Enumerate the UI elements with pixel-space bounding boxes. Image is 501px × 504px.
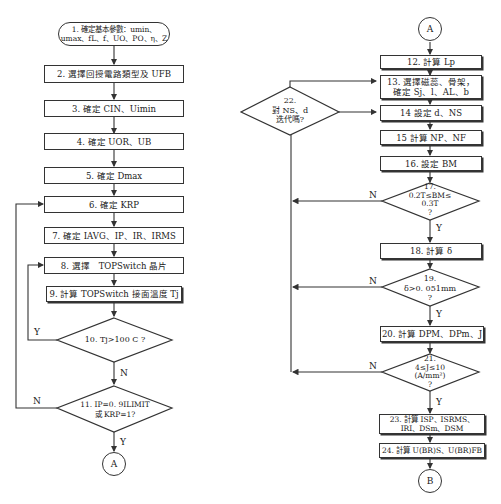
step-16-box: 16. 設定 BM <box>380 156 482 171</box>
step-14-box: 14 設定 d、NS <box>380 105 482 121</box>
decision-21-text: 21. 4≤J≤10 (A/mm²) ? <box>395 355 465 389</box>
step-12-box: 12. 計算 Lp <box>380 55 482 69</box>
decision-19-text: 19. δ>0. 051mm ? <box>395 274 465 303</box>
label-y-10: Y <box>34 327 40 337</box>
label-n-19: N <box>369 276 377 286</box>
step-6-box: 6. 確定 KRP <box>44 196 184 213</box>
step-18-box: 18. 計算 δ <box>380 243 482 259</box>
step-20-box: 20. 計算 DPM、DPm、J <box>380 326 484 342</box>
step-2-box: 2. 選擇回授電路類型及 UFB <box>44 65 184 83</box>
step-16-label: 16. 設定 BM <box>405 159 457 169</box>
label-n-10: N <box>120 368 128 378</box>
step-8-label: 8. 選擇 TOPSwitch 晶片 <box>61 261 167 271</box>
step-5-label: 5. 確定 Dmax <box>86 171 142 181</box>
label-n-11: N <box>33 396 41 406</box>
step-6-label: 6. 確定 KRP <box>89 200 139 210</box>
start-line-1: 1. 確定基本參數：umin、 <box>72 25 157 34</box>
decision-10-text: 10. Tj>100 C ? <box>72 335 158 345</box>
step-4-label: 4. 確定 UOR、UB <box>77 137 151 147</box>
step-12-label: 12. 計算 Lp <box>407 57 455 67</box>
step-3-label: 3. 確定 CIN、Uimin <box>72 104 156 114</box>
step-13-box: 13. 選擇磁蕊、骨架， 確定 Sj、l、AL、b <box>380 75 482 99</box>
step-7-label: 7. 確定 IAVG、IP、IR、IRMS <box>52 231 176 241</box>
start-terminal: 1. 確定基本參數：umin、 umax、fL、f、UO、PO、η、Z <box>58 22 170 46</box>
step-14-label: 14 設定 d、NS <box>400 108 462 118</box>
step-9-label: 9. 計算 TOPSwitch 接面溫度 Tj <box>49 289 178 299</box>
step-23-box: 23. 計算 ISP、ISRMS、 IRI、DSm、DSM <box>379 414 485 434</box>
start-line-2: umax、fL、f、UO、PO、η、Z <box>61 34 168 43</box>
step-18-label: 18. 計算 δ <box>410 246 452 256</box>
step-8-box: 8. 選擇 TOPSwitch 晶片 <box>44 257 184 274</box>
step-24-box: 24. 計算 U(BR)S、U(BR)FB <box>379 443 485 458</box>
label-y-11: Y <box>120 437 126 447</box>
label-n-17: N <box>369 190 377 200</box>
step-15-label: 15 計算 NP、NF <box>396 133 466 143</box>
step-3-box: 3. 確定 CIN、Uimin <box>44 100 184 117</box>
decision-11-text: 11. IP=0. 9ILIMIT 或 KRP=1? <box>72 400 158 419</box>
label-y-21: Y <box>436 397 442 407</box>
label-y-17: Y <box>436 223 442 233</box>
connector-a-end: A <box>102 452 126 476</box>
step-2-label: 2. 選擇回授電路類型及 UFB <box>57 69 171 79</box>
step-5-box: 5. 確定 Dmax <box>44 167 184 184</box>
step-9-box: 9. 計算 TOPSwitch 接面溫度 Tj <box>46 286 182 302</box>
decision-17-text: 17. 0.2T≤BM≤ 0.3T ? <box>395 183 465 217</box>
step-4-box: 4. 確定 UOR、UB <box>44 133 184 150</box>
connector-a-start: A <box>418 17 442 41</box>
step-20-label: 20. 計算 DPM、DPm、J <box>382 329 482 339</box>
label-n-21: N <box>369 361 377 371</box>
connector-b-end: B <box>418 469 442 493</box>
step-15-box: 15 計算 NP、NF <box>380 130 482 145</box>
step-7-box: 7. 確定 IAVG、IP、IR、IRMS <box>44 227 184 244</box>
label-y-19: Y <box>436 309 442 319</box>
step-24-label: 24. 計算 U(BR)S、U(BR)FB <box>382 446 482 456</box>
decision-22-text: 22. 對 NS、d 迭代嗎? <box>255 96 325 125</box>
